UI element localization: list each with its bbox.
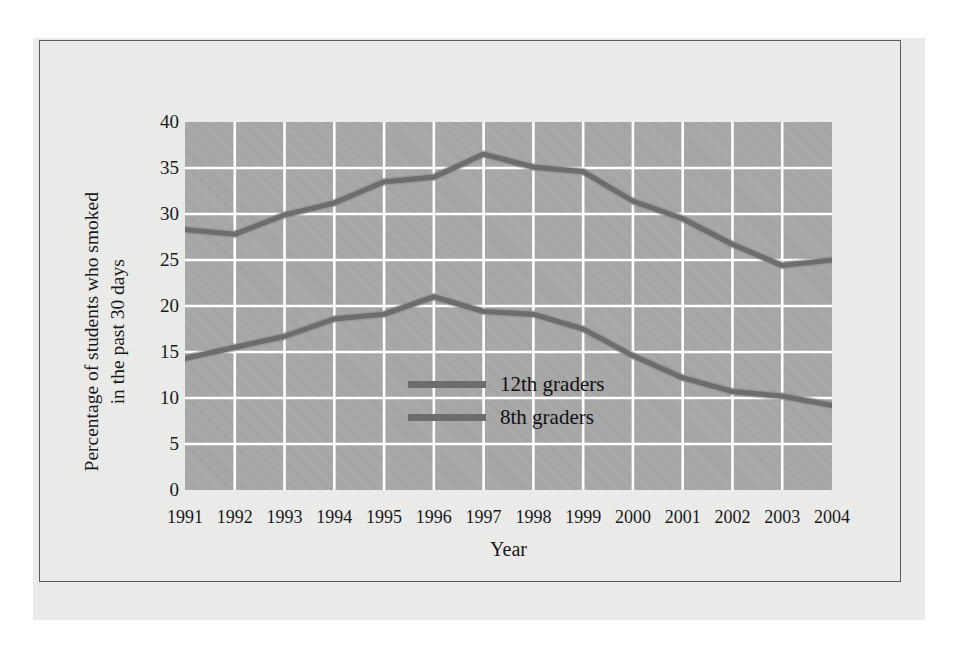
- legend-item[interactable]: 8th graders: [408, 401, 668, 434]
- legend-item[interactable]: 12th graders: [408, 368, 668, 401]
- x-axis-tick-label: 2003: [764, 508, 800, 526]
- y-axis-title-line-1: Percentage of students who smoked: [79, 142, 105, 522]
- legend-swatch-line-icon: [408, 381, 486, 388]
- x-axis-tick-label: 2004: [814, 508, 850, 526]
- x-axis-tick-label: 1997: [466, 508, 502, 526]
- y-axis-title: Percentage of students who smoked in the…: [79, 142, 130, 522]
- x-axis-tick-label: 1991: [167, 508, 203, 526]
- x-axis-tick-label: 1995: [366, 508, 402, 526]
- x-axis-tick-label: 2000: [615, 508, 651, 526]
- x-axis-tick-label: 1994: [316, 508, 352, 526]
- line-chart: 4035302520151050 19911992199319941995199…: [33, 38, 925, 620]
- legend-item-label: 12th graders: [500, 374, 604, 395]
- x-axis-tick-label: 1999: [565, 508, 601, 526]
- x-axis-title: Year: [185, 538, 832, 561]
- scanned-page-sheet: 4035302520151050 19911992199319941995199…: [33, 38, 925, 620]
- x-axis-tick-label: 1993: [267, 508, 303, 526]
- x-axis-tick-label: 2002: [714, 508, 750, 526]
- x-axis-tick-label: 1996: [416, 508, 452, 526]
- y-axis-title-line-2: in the past 30 days: [105, 142, 131, 522]
- legend-swatch-line-icon: [408, 414, 486, 421]
- x-axis-tick-label: 1992: [217, 508, 253, 526]
- chart-legend: 12th graders8th graders: [408, 368, 668, 434]
- x-axis-ticks: 1991199219931994199519961997199819992000…: [33, 38, 925, 620]
- x-axis-tick-label: 2001: [665, 508, 701, 526]
- legend-item-label: 8th graders: [500, 407, 594, 428]
- x-axis-tick-label: 1998: [515, 508, 551, 526]
